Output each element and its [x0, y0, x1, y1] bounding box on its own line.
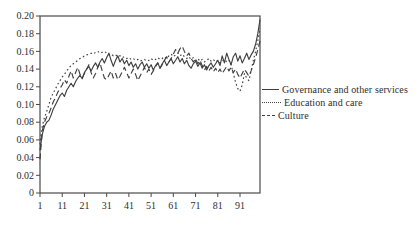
y-tick-label: 0.04 [17, 152, 35, 163]
x-tick-label: 91 [235, 200, 245, 211]
plot-frame [40, 16, 260, 193]
y-tick-label: 0.02 [17, 170, 35, 181]
dashed-line-swatch-icon [262, 115, 275, 116]
x-tick-label: 31 [102, 200, 112, 211]
legend-item-culture: Culture [262, 109, 408, 122]
y-tick-label: 0.14 [17, 63, 35, 74]
x-tick-label: 41 [124, 200, 134, 211]
legend: Governance and other services Education … [262, 83, 408, 122]
x-tick-label: 71 [191, 200, 201, 211]
y-tick-label: 0.08 [17, 116, 35, 127]
y-tick-label: 0.12 [17, 81, 35, 92]
legend-item-governance: Governance and other services [262, 83, 408, 96]
series-line-governance-and-other-services [40, 20, 260, 151]
x-tick-label: 11 [57, 200, 67, 211]
solid-line-swatch-icon [262, 89, 279, 90]
x-tick-label: 51 [146, 200, 156, 211]
x-tick-label: 61 [168, 200, 178, 211]
legend-label-education: Education and care [284, 97, 362, 108]
scanned-line-chart-figure: 00.020.040.060.080.100.120.140.160.180.2… [0, 0, 419, 227]
y-tick-label: 0.18 [17, 28, 35, 39]
dotted-line-swatch-icon [262, 102, 281, 103]
legend-label-culture: Culture [278, 110, 309, 121]
x-tick-label: 1 [38, 200, 43, 211]
y-tick-label: 0.20 [17, 10, 35, 21]
y-tick-label: 0.10 [17, 99, 35, 110]
y-tick-label: 0 [29, 187, 34, 198]
y-tick-label: 0.16 [17, 46, 35, 57]
legend-label-governance: Governance and other services [282, 84, 408, 95]
series-line-culture [40, 41, 260, 160]
y-tick-label: 0.06 [17, 134, 35, 145]
x-tick-label: 21 [79, 200, 89, 211]
legend-item-education: Education and care [262, 96, 408, 109]
x-tick-label: 81 [213, 200, 223, 211]
